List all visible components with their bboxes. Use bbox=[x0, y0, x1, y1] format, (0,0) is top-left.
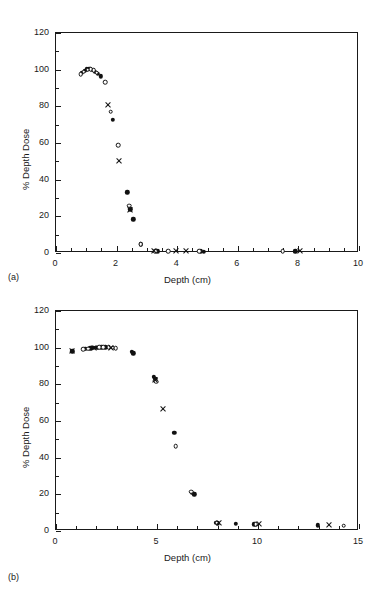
x-tick bbox=[359, 524, 360, 529]
data-point-filled-circle bbox=[202, 249, 206, 253]
x-tick-minor bbox=[329, 248, 330, 251]
plot-area-b bbox=[56, 311, 357, 529]
data-point-filled-circle bbox=[111, 117, 115, 121]
data-point-open-circle bbox=[108, 110, 113, 115]
data-point-cross bbox=[152, 377, 158, 383]
data-point-cross bbox=[216, 520, 222, 526]
panel-label-b: (b) bbox=[8, 572, 19, 582]
data-point-cross bbox=[105, 102, 111, 108]
plot-area-a bbox=[56, 33, 357, 251]
data-point-cross bbox=[69, 348, 75, 354]
x-tick-label: 15 bbox=[353, 537, 363, 546]
x-tick-minor bbox=[238, 526, 239, 529]
data-point-cross bbox=[127, 207, 133, 213]
data-point-open-circle bbox=[95, 70, 100, 75]
x-tick-minor bbox=[197, 526, 198, 529]
x-tick bbox=[117, 246, 118, 251]
x-tick-minor bbox=[278, 526, 279, 529]
y-tick bbox=[56, 494, 61, 495]
data-point-filled-circle bbox=[131, 217, 135, 221]
x-tick-minor bbox=[76, 526, 77, 529]
y-tick-label: 80 bbox=[23, 101, 49, 110]
data-point-filled-circle bbox=[172, 431, 176, 435]
data-point-open-circle bbox=[342, 523, 347, 528]
y-tick bbox=[56, 33, 61, 34]
y-tick-label: 100 bbox=[23, 64, 49, 73]
x-tick-minor bbox=[96, 526, 97, 529]
y-tick-minor bbox=[56, 235, 59, 236]
y-tick bbox=[56, 253, 61, 254]
x-tick-label: 10 bbox=[353, 259, 363, 268]
plot-frame-a bbox=[55, 32, 358, 252]
y-tick-minor bbox=[56, 439, 59, 440]
x-tick-minor bbox=[177, 526, 178, 529]
y-tick-minor bbox=[56, 403, 59, 404]
x-tick-label: 4 bbox=[174, 259, 179, 268]
data-point-open-circle bbox=[103, 80, 108, 85]
y-tick bbox=[56, 348, 61, 349]
data-point-open-circle bbox=[81, 347, 86, 352]
data-point-cross bbox=[91, 345, 97, 351]
y-tick-minor bbox=[56, 51, 59, 52]
y-tick-label: 100 bbox=[23, 342, 49, 351]
x-tick-minor bbox=[344, 248, 345, 251]
data-point-cross bbox=[151, 248, 157, 254]
data-point-open-circle bbox=[139, 242, 144, 247]
y-tick-label: 120 bbox=[23, 28, 49, 37]
y-tick-label: 20 bbox=[23, 211, 49, 220]
data-point-open-circle bbox=[166, 249, 171, 254]
y-tick-minor bbox=[56, 366, 59, 367]
x-tick-label: 10 bbox=[252, 537, 262, 546]
data-point-cross bbox=[326, 522, 332, 528]
x-axis-title-b: Depth (cm) bbox=[164, 552, 211, 563]
data-point-filled-circle bbox=[131, 351, 135, 355]
panel-a: 0246810 020406080100120 Depth (cm) % Dep… bbox=[0, 0, 375, 300]
x-tick-minor bbox=[147, 248, 148, 251]
x-tick bbox=[238, 246, 239, 251]
x-tick-label: 2 bbox=[113, 259, 118, 268]
data-point-cross bbox=[160, 406, 166, 412]
y-tick-minor bbox=[56, 476, 59, 477]
x-tick-minor bbox=[162, 248, 163, 251]
x-tick-minor bbox=[314, 248, 315, 251]
y-tick-minor bbox=[56, 88, 59, 89]
x-tick bbox=[56, 524, 57, 529]
x-tick bbox=[359, 246, 360, 251]
x-tick-minor bbox=[117, 526, 118, 529]
data-point-cross bbox=[256, 521, 262, 527]
depth-dose-figure: 0246810 020406080100120 Depth (cm) % Dep… bbox=[0, 0, 375, 600]
y-tick-label: 20 bbox=[23, 489, 49, 498]
x-tick-label: 0 bbox=[52, 537, 57, 546]
x-tick-minor bbox=[253, 248, 254, 251]
data-point-cross bbox=[116, 158, 122, 164]
y-axis-title-b: % Depth Dose bbox=[20, 407, 31, 468]
y-tick bbox=[56, 384, 61, 385]
y-tick-label: 120 bbox=[23, 306, 49, 315]
data-point-open-circle bbox=[116, 143, 121, 148]
x-tick-minor bbox=[192, 248, 193, 251]
x-tick-minor bbox=[86, 248, 87, 251]
data-point-open-circle bbox=[189, 489, 194, 494]
y-tick-minor bbox=[56, 198, 59, 199]
y-tick-minor bbox=[56, 329, 59, 330]
x-tick-label: 0 bbox=[52, 259, 57, 268]
x-axis-title-a: Depth (cm) bbox=[164, 274, 211, 285]
data-point-cross bbox=[108, 345, 114, 351]
y-tick-label: 0 bbox=[23, 526, 49, 535]
x-tick-minor bbox=[101, 248, 102, 251]
y-tick bbox=[56, 531, 61, 532]
y-axis-title-a: % Depth Dose bbox=[20, 129, 31, 190]
y-tick-label: 0 bbox=[23, 248, 49, 257]
y-tick bbox=[56, 106, 61, 107]
x-tick-label: 6 bbox=[234, 259, 239, 268]
y-tick bbox=[56, 70, 61, 71]
x-tick-label: 5 bbox=[153, 537, 158, 546]
panel-label-a: (a) bbox=[8, 272, 19, 282]
data-point-cross bbox=[173, 248, 179, 254]
x-tick-minor bbox=[132, 248, 133, 251]
x-tick bbox=[157, 524, 158, 529]
x-tick-minor bbox=[208, 248, 209, 251]
y-tick-minor bbox=[56, 513, 59, 514]
y-tick-label: 80 bbox=[23, 379, 49, 388]
y-tick bbox=[56, 311, 61, 312]
